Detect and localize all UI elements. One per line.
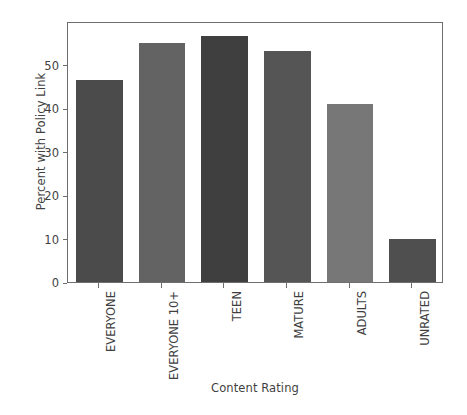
x-tick-mark xyxy=(161,283,162,288)
bar xyxy=(389,239,435,282)
x-tick-mark xyxy=(286,283,287,288)
x-tick-label: EVERYONE 10+ xyxy=(167,291,181,380)
bar xyxy=(264,51,310,282)
bar xyxy=(76,80,122,282)
x-tick-mark xyxy=(411,283,412,288)
y-tick-label: 10 xyxy=(44,232,59,248)
x-axis-title: Content Rating xyxy=(67,381,443,395)
x-tick-label: MATURE xyxy=(292,291,306,339)
y-tick-label: 0 xyxy=(52,275,59,291)
bar xyxy=(201,36,247,282)
x-tick-label: EVERYONE xyxy=(104,291,118,352)
x-tick-mark xyxy=(98,283,99,288)
y-tick-label: 50 xyxy=(44,58,59,74)
y-tick-label: 20 xyxy=(44,188,59,204)
x-tick-label: TEEN xyxy=(230,291,244,321)
x-tick-mark xyxy=(349,283,350,288)
y-tick-label: 30 xyxy=(44,145,59,161)
x-tick-label: ADULTS xyxy=(355,291,369,335)
bar xyxy=(139,43,185,282)
x-tick-mark xyxy=(223,283,224,288)
bar-chart-figure: Percent with Policy Link Content Rating … xyxy=(0,0,467,415)
bar xyxy=(327,104,373,282)
plot-area xyxy=(67,22,443,283)
y-tick-label: 40 xyxy=(44,101,59,117)
x-tick-label: UNRATED xyxy=(418,291,432,346)
